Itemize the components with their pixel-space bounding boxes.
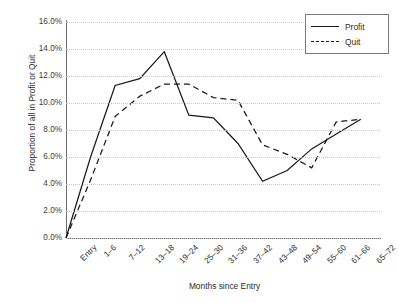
gridline	[66, 130, 380, 131]
y-axis-tick-label: 4.0%	[18, 180, 62, 188]
legend-line-dashed-icon	[311, 37, 339, 47]
x-axis-tick-label: 43–48	[276, 243, 298, 265]
gridline	[66, 211, 380, 212]
x-axis-tick-label: 49–54	[301, 243, 323, 265]
chart-legend: Profit Quit	[305, 14, 389, 54]
gridline	[66, 238, 380, 239]
y-axis-tick-label: 0.0%	[18, 234, 62, 242]
gridline	[66, 76, 380, 77]
x-axis-tick-label: 55–60	[325, 243, 347, 265]
series-line-quit	[66, 84, 361, 238]
x-axis-title: Months since Entry	[0, 281, 399, 291]
plot-area	[66, 22, 380, 238]
y-axis-ticks: 16.0%14.0%12.0%10.0%8.0%6.0%4.0%2.0%0.0%	[14, 0, 62, 260]
y-axis-tick-label: 10.0%	[18, 99, 62, 107]
x-axis-tick-label: 31–36	[227, 243, 249, 265]
gridline	[66, 157, 380, 158]
y-axis-tick-label: 2.0%	[18, 207, 62, 215]
legend-label-profit: Profit	[345, 22, 365, 32]
y-axis-tick-label: 8.0%	[18, 126, 62, 134]
x-axis-tick-label: 1–6	[102, 243, 118, 259]
x-axis-tick-label: 65–72	[375, 243, 397, 265]
x-axis-tick-label: 13–18	[153, 243, 175, 265]
legend-label-quit: Quit	[345, 37, 360, 47]
line-chart: 16.0%14.0%12.0%10.0%8.0%6.0%4.0%2.0%0.0%…	[0, 0, 399, 303]
x-axis-tick-label: 25–30	[203, 243, 225, 265]
gridline	[66, 103, 380, 104]
y-axis-tick-label: 16.0%	[18, 18, 62, 26]
y-axis-tick-label: 6.0%	[18, 153, 62, 161]
x-axis-tick-label: 61–66	[350, 243, 372, 265]
legend-item-quit: Quit	[311, 34, 384, 49]
x-axis-tick-label: 7–12	[127, 243, 146, 262]
y-axis-title: Proportion of all in Profit or Quit	[27, 18, 37, 208]
y-axis-tick-label: 14.0%	[18, 45, 62, 53]
x-axis-tick-label: Entry	[79, 243, 99, 263]
legend-item-profit: Profit	[311, 19, 384, 34]
y-axis-tick-label: 12.0%	[18, 72, 62, 80]
x-axis-tick-label: 37–42	[252, 243, 274, 265]
x-axis-tick-label: 19–24	[178, 243, 200, 265]
gridline	[66, 184, 380, 185]
legend-line-solid-icon	[311, 22, 339, 32]
